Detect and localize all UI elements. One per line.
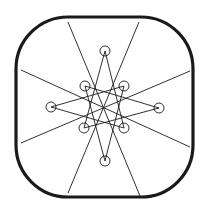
- geometric-star-diagram: [0, 0, 207, 207]
